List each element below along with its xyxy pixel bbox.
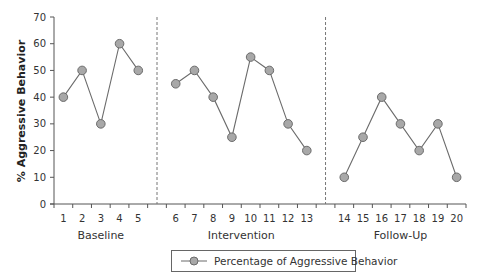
x-tick-label: 18 xyxy=(413,213,426,224)
x-tick-label: 4 xyxy=(116,213,122,224)
data-series xyxy=(59,39,461,181)
phase-label-intervention: Intervention xyxy=(208,229,275,242)
x-axis: 1234567891011121314151617181920 xyxy=(50,204,466,224)
x-tick-label: 10 xyxy=(244,213,257,224)
y-tick-label: 30 xyxy=(33,118,46,129)
x-tick-label: 15 xyxy=(357,213,370,224)
phase-separators xyxy=(157,17,326,204)
phase-series-follow-up xyxy=(340,93,461,182)
x-tick-label: 5 xyxy=(135,213,141,224)
x-tick-label: 7 xyxy=(191,213,197,224)
y-axis-title: % Aggressive Behavior xyxy=(15,39,28,182)
data-point-marker xyxy=(340,173,349,182)
x-tick-label: 16 xyxy=(375,213,388,224)
y-tick-label: 50 xyxy=(33,65,46,76)
data-point-marker xyxy=(246,53,255,62)
y-tick-label: 40 xyxy=(33,92,46,103)
phase-series-baseline xyxy=(59,39,143,128)
phase-labels: BaselineInterventionFollow-Up xyxy=(77,229,427,242)
data-point-marker xyxy=(359,133,368,142)
y-tick-label: 20 xyxy=(33,145,46,156)
x-tick-label: 13 xyxy=(300,213,313,224)
data-point-marker xyxy=(303,146,312,155)
data-point-marker xyxy=(415,146,424,155)
phase-label-follow-up: Follow-Up xyxy=(374,229,428,242)
y-tick-label: 60 xyxy=(33,38,46,49)
data-point-marker xyxy=(115,39,124,48)
data-point-marker xyxy=(396,120,405,129)
data-point-marker xyxy=(284,120,293,129)
data-point-marker xyxy=(265,66,274,75)
data-point-marker xyxy=(377,93,386,102)
x-tick-label: 3 xyxy=(98,213,104,224)
data-point-marker xyxy=(97,120,106,129)
legend-label: Percentage of Aggressive Behavior xyxy=(214,255,398,267)
series-line xyxy=(63,44,138,124)
data-point-marker xyxy=(78,66,87,75)
x-tick-label: 12 xyxy=(282,213,295,224)
x-tick-label: 6 xyxy=(173,213,179,224)
data-point-marker xyxy=(190,66,199,75)
data-point-marker xyxy=(134,66,143,75)
y-tick-label: 70 xyxy=(33,12,46,23)
y-tick-label: 10 xyxy=(33,172,46,183)
x-tick-label: 14 xyxy=(338,213,351,224)
y-tick-label: 0 xyxy=(40,199,46,210)
data-point-marker xyxy=(59,93,68,102)
data-point-marker xyxy=(452,173,461,182)
phase-label-baseline: Baseline xyxy=(77,229,124,242)
x-tick-label: 1 xyxy=(60,213,66,224)
data-point-marker xyxy=(434,120,443,129)
x-tick-label: 20 xyxy=(450,213,463,224)
phase-series-intervention xyxy=(171,53,311,155)
line-chart: % Aggressive Behavior 010203040506070 12… xyxy=(0,0,488,280)
x-tick-label: 11 xyxy=(263,213,276,224)
legend: Percentage of Aggressive Behavior xyxy=(172,251,399,272)
y-axis-title-text: % Aggressive Behavior xyxy=(15,39,28,182)
data-point-marker xyxy=(171,79,180,88)
x-tick-label: 9 xyxy=(229,213,235,224)
x-tick-label: 19 xyxy=(432,213,445,224)
x-tick-label: 17 xyxy=(394,213,407,224)
data-point-marker xyxy=(228,133,237,142)
x-tick-label: 2 xyxy=(79,213,85,224)
x-tick-label: 8 xyxy=(210,213,216,224)
data-point-marker xyxy=(209,93,218,102)
y-axis: 010203040506070 xyxy=(33,12,54,210)
